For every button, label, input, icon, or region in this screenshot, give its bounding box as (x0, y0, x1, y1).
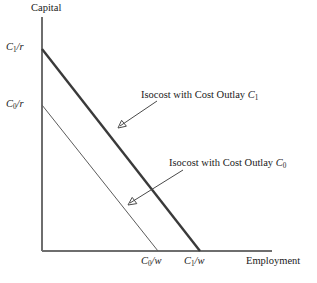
annotation-c0-variable: C (276, 157, 283, 168)
y-tick-label-c0-over-r: C0/r (6, 99, 24, 110)
arrow-to-isocost-c1 (118, 101, 157, 128)
isocost-line-c0 (42, 105, 158, 251)
annotation-c1-variable: C (248, 89, 255, 100)
annotation-c0-text: Isocost with Cost Outlay (169, 157, 276, 168)
annotation-c0-subscript: 0 (283, 162, 287, 170)
x-tick-label-c0-over-w: C0/w (141, 256, 162, 267)
y-tick-c0-variable: C (6, 98, 13, 109)
y-tick-c0-suffix: /r (17, 98, 24, 109)
annotation-c1-text: Isocost with Cost Outlay (141, 89, 248, 100)
annotation-isocost-c0: Isocost with Cost Outlay C0 (169, 158, 286, 169)
isocost-diagram: Capital Employment C1/r C0/r C0/w C1/w I… (0, 0, 317, 283)
y-axis-label: Capital (31, 3, 61, 14)
x-tick-label-c1-over-w: C1/w (184, 256, 205, 267)
x-tick-c1-variable: C (184, 255, 191, 266)
y-tick-label-c1-over-r: C1/r (6, 42, 24, 53)
isocost-line-c1 (42, 49, 200, 251)
x-tick-c0-variable: C (141, 255, 148, 266)
x-tick-c1-suffix: /w (195, 255, 205, 266)
x-axis-label: Employment (246, 256, 300, 267)
y-tick-c1-suffix: /r (17, 41, 24, 52)
x-tick-c0-suffix: /w (152, 255, 162, 266)
annotation-isocost-c1: Isocost with Cost Outlay C1 (141, 90, 258, 101)
annotation-c1-subscript: 1 (255, 94, 259, 102)
y-tick-c1-variable: C (6, 41, 13, 52)
plot-area (0, 0, 317, 283)
arrow-to-isocost-c0 (128, 170, 183, 205)
